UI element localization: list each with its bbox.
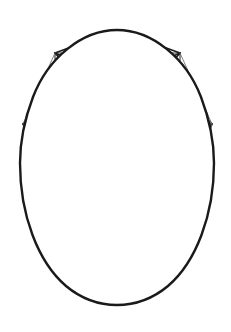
egg-outline [20, 30, 214, 305]
figure-canvas: Geometric egg / oval wireframe diagram E… [0, 0, 231, 332]
geometric-egg-diagram: Geometric egg / oval wireframe diagram E… [0, 0, 231, 332]
